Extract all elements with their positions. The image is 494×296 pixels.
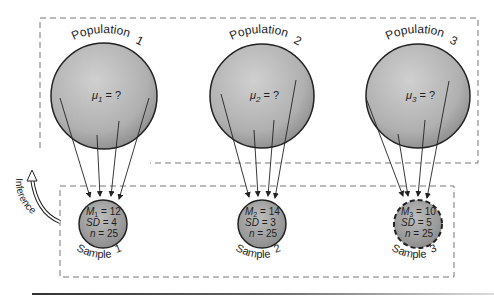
sample-3-n: n = 25 [405,228,434,239]
sample-3-sd: SD = 5 [401,217,432,228]
population-2: Population2 μ2 = ? [210,22,314,148]
sample-1: M1 = 12 SD = 4 n = 25 Sample1 [75,200,127,260]
population-1: Population1 μ1 = ? [51,22,157,149]
inference-arrow: Inference [14,170,60,222]
sample-2-n: n = 25 [249,228,278,239]
sample-2-sd: SD = 3 [245,217,276,228]
sample-2: M2 = 14 SD = 3 n = 25 Sample2 [234,200,286,260]
arrowhead-icon [27,170,37,181]
diagram-canvas: Population1 μ1 = ? Population2 μ2 = ? Po… [0,0,494,296]
sample-1-sd: SD = 4 [86,217,117,228]
population-3: Population3 μ3 = ? [366,22,470,148]
sample-3: M3 = 10 SD = 5 n = 25 Sample3 [390,200,442,260]
bottom-rule [32,293,494,295]
sample-1-n: n = 25 [90,228,119,239]
